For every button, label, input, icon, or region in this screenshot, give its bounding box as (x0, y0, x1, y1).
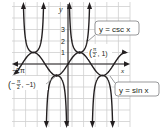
point-neg-pi-over-2 (55, 74, 58, 77)
x-axis-label: x (120, 67, 125, 75)
point-pi-over-2 (78, 51, 81, 54)
x-axis-arrow-right-icon (124, 61, 130, 66)
svg-text:2: 2 (17, 84, 20, 90)
arrow-down-icon (110, 121, 115, 128)
arrow-up-icon (87, 2, 92, 9)
callout-sin: y = sin x (110, 76, 159, 96)
y-tick-1: 1 (61, 49, 65, 56)
svg-text:, −1): , −1) (22, 81, 36, 89)
svg-text:2: 2 (93, 52, 96, 58)
csc-label: y = csc x (99, 25, 130, 34)
x-tick-neg-2pi: −2π (12, 67, 25, 74)
label-point-neg-pi-over-2: ( − π 2 , −1) (7, 76, 55, 90)
callout-csc: y = csc x (88, 21, 139, 41)
label-point-pi-over-2: ( π 2 , 1) (88, 44, 112, 59)
svg-text:, 1): , 1) (98, 50, 108, 58)
y-axis-label: y (58, 5, 63, 14)
arrow-up-icon (41, 2, 46, 9)
y-tick-2: 2 (61, 38, 65, 45)
sin-label: y = sin x (119, 86, 149, 95)
y-tick-3: 3 (61, 26, 65, 33)
graph: y x −2π 1 2 3 ( π 2 , 1) ( − π 2 , −1) y… (0, 0, 165, 131)
arrow-up-icon (21, 2, 26, 9)
arrow-down-icon (44, 121, 49, 128)
svg-text:(: ( (89, 48, 92, 58)
arrow-down-icon (90, 121, 95, 128)
svg-text:−: − (11, 80, 15, 87)
x-axis-arrow-left-icon (12, 61, 18, 66)
